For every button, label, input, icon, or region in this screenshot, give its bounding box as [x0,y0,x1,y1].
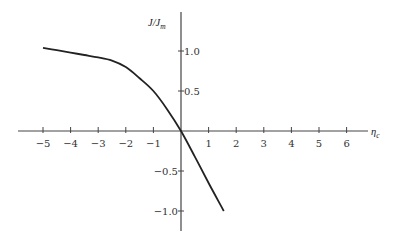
y-tick-label: −1.0 [154,206,178,217]
y-axis-label: J/Jm [148,17,166,31]
y-axis: 1.00.5−0.5−1.0 [154,12,200,231]
x-tick-label: 2 [233,138,239,149]
y-tick-label: 0.5 [184,86,200,97]
x-tick-label: 1 [205,138,211,149]
x-tick-label: −5 [36,138,51,149]
x-tick-label: −2 [118,138,133,149]
x-tick-label: −1 [146,138,161,149]
x-tick-label: −3 [91,138,106,149]
chart: −5−4−3−2−1123456 1.00.5−0.5−1.0 J/Jm ηc [0,0,395,241]
x-tick-label: 3 [261,138,267,149]
x-tick-label: 4 [288,138,294,149]
x-tick-label: −4 [63,138,78,149]
y-tick-label: 1.0 [184,46,200,57]
x-axis-label: ηc [371,126,380,140]
x-axis: −5−4−3−2−1123456 [18,127,368,149]
x-tick-label: 6 [343,138,349,149]
x-tick-label: 5 [316,138,322,149]
y-tick-label: −0.5 [154,166,178,177]
